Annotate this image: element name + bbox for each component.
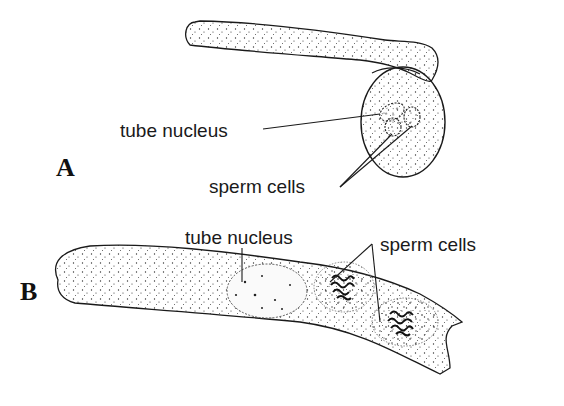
label-sperm-cells-a: sperm cells [209, 177, 305, 196]
pollen-tube-diagram: A tube nucleus sperm cells B tube nucleu… [0, 0, 564, 406]
label-tube-nucleus-b: tube nucleus [185, 228, 293, 247]
panel-a-drawing [186, 21, 445, 187]
panel-b-drawing [56, 244, 462, 374]
sperm-cell-envelope-b-2 [372, 298, 438, 346]
pollen-grain-a [361, 67, 445, 177]
sperm-cell-a-2 [404, 107, 420, 127]
panel-label-a: A [56, 155, 75, 181]
diagram-drawing [0, 0, 564, 406]
sperm-cell-a-1 [385, 118, 401, 136]
label-sperm-cells-b: sperm cells [380, 235, 476, 254]
tube-nucleus-b [227, 264, 307, 318]
panel-label-b: B [20, 279, 37, 305]
label-tube-nucleus-a: tube nucleus [120, 121, 228, 140]
